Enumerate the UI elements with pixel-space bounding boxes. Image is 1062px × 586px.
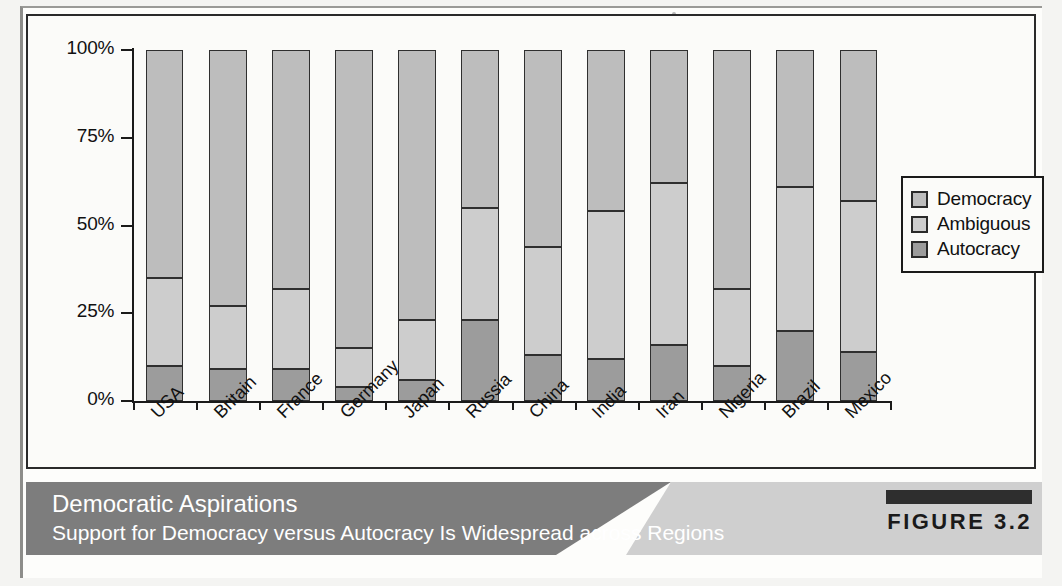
figure-caption-bar: Democratic Aspirations Support for Democ… <box>26 482 1042 555</box>
x-tick-mark <box>764 401 766 410</box>
x-tick-mark <box>701 401 703 410</box>
x-tick-mark <box>512 401 514 410</box>
bars-container <box>133 50 890 401</box>
x-tick-mark <box>259 401 261 410</box>
y-tick-mark <box>121 49 132 51</box>
bar-germany <box>335 50 373 401</box>
figure-caption-subtitle: Support for Democracy versus Autocracy I… <box>52 519 724 547</box>
bar-segment-ambiguous <box>272 289 310 370</box>
bar-japan <box>398 50 436 401</box>
bar-segment-democracy <box>713 50 751 289</box>
bar-nigeria <box>713 50 751 401</box>
x-tick-mark <box>133 401 135 410</box>
legend-item-autocracy: Autocracy <box>911 238 1031 260</box>
bar-segment-democracy <box>776 50 814 187</box>
legend-item-label: Democracy <box>937 188 1031 210</box>
bar-segment-democracy <box>840 50 878 201</box>
y-tick-mark <box>121 137 132 139</box>
bar-china <box>524 50 562 401</box>
legend-item-label: Ambiguous <box>937 213 1030 235</box>
legend-item-label: Autocracy <box>937 238 1020 260</box>
legend-swatch-icon <box>911 241 928 258</box>
y-tick-mark <box>121 312 132 314</box>
bar-france <box>272 50 310 401</box>
bar-segment-ambiguous <box>650 183 688 344</box>
bar-segment-ambiguous <box>524 247 562 356</box>
chart-legend: DemocracyAmbiguousAutocracy <box>901 176 1044 273</box>
bar-india <box>587 50 625 401</box>
bar-segment-democracy <box>335 50 373 348</box>
bar-segment-democracy <box>461 50 499 208</box>
bar-iran <box>650 50 688 401</box>
legend-item-ambiguous: Ambiguous <box>911 213 1031 235</box>
figure-root: 0%25%50%75%100% USABritainFranceGermanyJ… <box>0 0 1062 586</box>
y-tick-label: 75% <box>36 125 114 147</box>
figure-tag-block: FIGURE 3.2 <box>886 490 1032 535</box>
figure-caption-title: Democratic Aspirations <box>52 488 724 519</box>
bar-segment-democracy <box>524 50 562 247</box>
y-tick-label: 25% <box>36 300 114 322</box>
x-tick-mark <box>575 401 577 410</box>
bar-segment-ambiguous <box>146 278 184 366</box>
legend-item-democracy: Democracy <box>911 188 1031 210</box>
y-tick-label: 100% <box>36 37 114 59</box>
bar-russia <box>461 50 499 401</box>
bar-segment-democracy <box>146 50 184 278</box>
y-tick-label: 0% <box>36 388 114 410</box>
bar-segment-ambiguous <box>840 201 878 352</box>
figure-tag-label: FIGURE 3.2 <box>886 509 1032 535</box>
bar-segment-democracy <box>272 50 310 289</box>
legend-swatch-icon <box>911 191 928 208</box>
bar-segment-ambiguous <box>209 306 247 369</box>
x-tick-mark <box>448 401 450 410</box>
bar-segment-democracy <box>650 50 688 183</box>
legend-swatch-icon <box>911 216 928 233</box>
x-tick-mark <box>322 401 324 410</box>
bar-segment-democracy <box>587 50 625 211</box>
figure-tag-rule <box>886 490 1032 504</box>
bar-brazil <box>776 50 814 401</box>
x-tick-mark <box>196 401 198 410</box>
x-tick-mark <box>385 401 387 410</box>
bar-segment-ambiguous <box>398 320 436 380</box>
y-tick-label: 50% <box>36 213 114 235</box>
chart-plot-frame: 0%25%50%75%100% USABritainFranceGermanyJ… <box>26 14 1036 469</box>
x-tick-mark <box>890 401 892 410</box>
bar-segment-democracy <box>209 50 247 306</box>
bar-segment-ambiguous <box>587 211 625 358</box>
x-tick-mark <box>638 401 640 410</box>
bar-britain <box>209 50 247 401</box>
caption-text-group: Democratic Aspirations Support for Democ… <box>52 488 724 547</box>
y-tick-mark <box>121 225 132 227</box>
y-tick-mark <box>121 400 132 402</box>
bar-segment-ambiguous <box>713 289 751 366</box>
bar-segment-ambiguous <box>776 187 814 331</box>
bar-segment-ambiguous <box>461 208 499 320</box>
bar-mexico <box>840 50 878 401</box>
bar-usa <box>146 50 184 401</box>
bar-segment-democracy <box>398 50 436 320</box>
x-tick-mark <box>827 401 829 410</box>
